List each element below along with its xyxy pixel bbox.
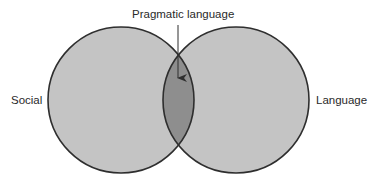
social-label: Social	[11, 95, 42, 107]
venn-diagram	[0, 0, 370, 183]
intersection-label: Pragmatic language	[132, 9, 234, 21]
language-label: Language	[316, 95, 367, 107]
